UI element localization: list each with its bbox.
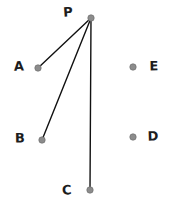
segment-pb xyxy=(42,18,91,140)
point-label-a: A xyxy=(14,59,25,72)
point-label-c: C xyxy=(62,183,72,196)
point-dot-p xyxy=(88,15,94,21)
point-dot-e xyxy=(130,64,136,70)
point-dot-d xyxy=(130,134,136,140)
point-dot-a xyxy=(35,65,41,71)
point-dot-b xyxy=(39,137,45,143)
point-dot-layer xyxy=(35,15,136,193)
segment-pa xyxy=(38,18,91,68)
point-label-e: E xyxy=(149,59,158,72)
point-dot-c xyxy=(87,187,93,193)
point-label-b: B xyxy=(15,131,25,144)
point-label-p: P xyxy=(63,5,74,19)
diagram-canvas xyxy=(0,0,172,210)
segment-layer xyxy=(38,18,91,190)
point-label-d: D xyxy=(147,129,158,142)
geometry-diagram: PABCDE xyxy=(0,0,172,210)
segment-pc xyxy=(90,18,91,190)
